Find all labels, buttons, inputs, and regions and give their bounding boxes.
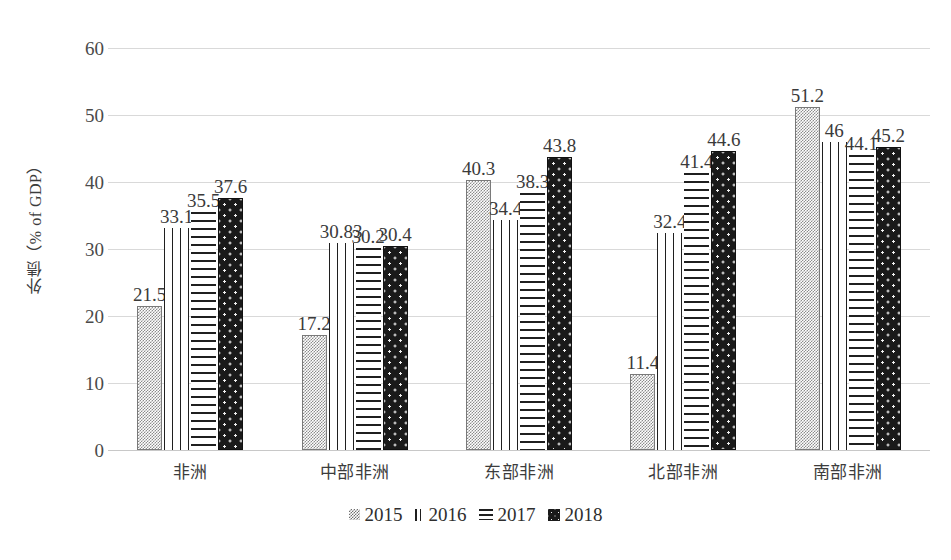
bar-value-label: 44.6 bbox=[707, 130, 740, 149]
bar-rect bbox=[849, 155, 874, 450]
y-tick-label: 20 bbox=[85, 307, 104, 326]
bar-value-label: 17.2 bbox=[297, 314, 330, 333]
bar-2018-东部非洲[interactable]: 43.8 bbox=[547, 157, 572, 450]
bar-2015-中部非洲[interactable]: 17.2 bbox=[302, 335, 327, 450]
bar-2017-东部非洲[interactable]: 38.3 bbox=[520, 193, 545, 450]
bar-2015-南部非洲[interactable]: 51.2 bbox=[795, 107, 820, 450]
bar-rect bbox=[218, 198, 243, 450]
bar-group: 40.334.438.343.8 bbox=[466, 48, 572, 450]
bar-2016-北部非洲[interactable]: 32.4 bbox=[657, 233, 682, 450]
bar-value-label: 43.8 bbox=[543, 136, 576, 155]
y-tick-label: 50 bbox=[85, 106, 104, 125]
x-tick-label: 非洲 bbox=[173, 458, 208, 483]
bar-value-label: 45.2 bbox=[872, 126, 905, 145]
bar-value-label: 40.3 bbox=[462, 159, 495, 178]
bar-2016-东部非洲[interactable]: 34.4 bbox=[493, 220, 518, 450]
bar-value-label: 11.4 bbox=[627, 353, 660, 372]
legend-label: 2016 bbox=[429, 505, 467, 524]
bar-rect bbox=[630, 374, 655, 450]
bar-value-label: 46 bbox=[825, 121, 844, 140]
bar-group: 17.230.8330.230.4 bbox=[302, 48, 408, 450]
legend-label: 2018 bbox=[565, 505, 603, 524]
bar-rect bbox=[493, 220, 518, 450]
bar-value-label: 38.3 bbox=[516, 172, 549, 191]
bar-value-label: 30.4 bbox=[378, 225, 411, 244]
bar-2016-中部非洲[interactable]: 30.83 bbox=[329, 243, 354, 450]
legend-item-2017[interactable]: 2017 bbox=[479, 505, 536, 524]
dark-dots-swatch-icon bbox=[548, 509, 560, 521]
bar-2015-东部非洲[interactable]: 40.3 bbox=[466, 180, 491, 450]
bar-2018-非洲[interactable]: 37.6 bbox=[218, 198, 243, 450]
x-axis-tick-labels: 非洲中部非洲东部非洲北部非洲南部非洲 bbox=[108, 458, 930, 494]
checker-gray-swatch-icon bbox=[349, 509, 360, 520]
bar-2015-北部非洲[interactable]: 11.4 bbox=[630, 374, 655, 450]
bar-groups: 21.533.135.537.617.230.8330.230.440.334.… bbox=[108, 48, 930, 450]
bar-rect bbox=[795, 107, 820, 450]
bar-rect bbox=[520, 193, 545, 450]
legend-item-2016[interactable]: 2016 bbox=[415, 505, 467, 524]
bar-2018-中部非洲[interactable]: 30.4 bbox=[383, 246, 408, 450]
y-tick-label: 0 bbox=[95, 441, 105, 460]
y-tick-label: 60 bbox=[85, 39, 104, 58]
bar-chart: 外债（% of GDP） 0102030405060 21.533.135.53… bbox=[0, 0, 951, 560]
bar-rect bbox=[466, 180, 491, 450]
bar-value-label: 51.2 bbox=[791, 86, 824, 105]
bar-2016-非洲[interactable]: 33.1 bbox=[164, 228, 189, 450]
bar-value-label: 32.4 bbox=[653, 212, 686, 231]
bar-rect bbox=[383, 246, 408, 450]
bar-rect bbox=[137, 306, 162, 450]
chart-legend: 2015201620172018 bbox=[0, 505, 951, 524]
bar-2017-非洲[interactable]: 35.5 bbox=[191, 212, 216, 450]
bar-rect bbox=[191, 212, 216, 450]
legend-label: 2015 bbox=[365, 505, 403, 524]
y-tick-label: 30 bbox=[85, 240, 104, 259]
bar-rect bbox=[547, 157, 572, 450]
bar-group: 21.533.135.537.6 bbox=[137, 48, 243, 450]
legend-item-2015[interactable]: 2015 bbox=[349, 505, 403, 524]
bar-group: 11.432.441.444.6 bbox=[630, 48, 736, 450]
bar-rect bbox=[302, 335, 327, 450]
bar-value-label: 37.6 bbox=[214, 177, 247, 196]
bar-2016-南部非洲[interactable]: 46 bbox=[822, 142, 847, 450]
x-tick-label: 南部非洲 bbox=[813, 458, 883, 483]
bar-2017-北部非洲[interactable]: 41.4 bbox=[684, 173, 709, 450]
bar-rect bbox=[876, 147, 901, 450]
bar-rect bbox=[329, 243, 354, 450]
bar-rect bbox=[822, 142, 847, 450]
y-axis-tick-labels: 0102030405060 bbox=[60, 48, 104, 450]
vertical-lines-swatch-icon bbox=[415, 509, 424, 521]
bar-rect bbox=[711, 151, 736, 450]
bar-rect bbox=[356, 248, 381, 450]
bar-rect bbox=[684, 173, 709, 450]
legend-label: 2017 bbox=[498, 505, 536, 524]
x-tick-label: 中部非洲 bbox=[320, 458, 390, 483]
y-axis-title-text: 外债（% of GDP） bbox=[24, 157, 48, 294]
legend-item-2018[interactable]: 2018 bbox=[548, 505, 603, 524]
bar-value-label: 21.5 bbox=[133, 285, 166, 304]
bar-rect bbox=[657, 233, 682, 450]
bar-2018-南部非洲[interactable]: 45.2 bbox=[876, 147, 901, 450]
x-tick-label: 东部非洲 bbox=[484, 458, 554, 483]
y-tick-label: 40 bbox=[85, 173, 104, 192]
horizontal-lines-swatch-icon bbox=[479, 509, 493, 520]
bar-2018-北部非洲[interactable]: 44.6 bbox=[711, 151, 736, 450]
gridline bbox=[108, 450, 930, 451]
y-tick-label: 10 bbox=[85, 374, 104, 393]
bar-2015-非洲[interactable]: 21.5 bbox=[137, 306, 162, 450]
bar-value-label: 34.4 bbox=[489, 199, 522, 218]
bar-value-label: 41.4 bbox=[680, 152, 713, 171]
plot-area: 21.533.135.537.617.230.8330.230.440.334.… bbox=[108, 48, 930, 450]
bar-2017-南部非洲[interactable]: 44.1 bbox=[849, 155, 874, 450]
bar-2017-中部非洲[interactable]: 30.2 bbox=[356, 248, 381, 450]
bar-rect bbox=[164, 228, 189, 450]
y-axis-title: 外债（% of GDP） bbox=[16, 0, 56, 450]
x-tick-label: 北部非洲 bbox=[648, 458, 718, 483]
bar-group: 51.24644.145.2 bbox=[795, 48, 901, 450]
